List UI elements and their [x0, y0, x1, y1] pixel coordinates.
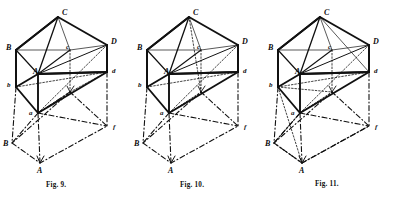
vertex-label-fig-9-9: B	[3, 140, 8, 148]
vertex-label-fig-11-9: B	[265, 140, 270, 148]
vertex-label-fig-9-2: B	[6, 44, 11, 52]
figure-11-drawing	[262, 0, 395, 197]
vertex-label-fig-10-5: A	[164, 68, 169, 76]
vertex-label-fig-9-3: c	[66, 44, 69, 51]
vertex-label-fig-10-6: b	[138, 82, 142, 89]
vertex-label-fig-9-5: A	[33, 68, 38, 76]
vertex-label-fig-10-4: d	[243, 68, 247, 75]
vertex-label-fig-11-4: d	[374, 68, 378, 75]
vertex-label-fig-10-1: D	[242, 38, 248, 46]
vertex-label-fig-11-1: D	[373, 38, 379, 46]
vertex-label-fig-10-9: B	[134, 140, 139, 148]
vertex-label-fig-11-10: A	[299, 167, 304, 175]
caption-fig-10: Fig. 10.	[180, 181, 204, 189]
vertex-label-fig-11-6: b	[269, 82, 273, 89]
vertex-label-fig-10-10: A	[168, 167, 173, 175]
vertex-label-fig-10-8: f	[244, 124, 246, 131]
vertex-label-fig-10-7: a	[160, 110, 164, 117]
vertex-label-fig-9-8: f	[113, 124, 115, 131]
figure-10-drawing	[131, 0, 262, 197]
vertex-label-fig-9-6: b	[7, 82, 11, 89]
vertex-label-fig-11-0: C	[324, 9, 329, 17]
vertex-label-fig-9-1: D	[111, 38, 117, 46]
vertex-label-fig-9-7: a	[29, 110, 33, 117]
caption-fig-9: Fig. 9.	[46, 181, 66, 189]
vertex-label-fig-10-0: C	[193, 9, 198, 17]
vertex-label-fig-11-8: f	[375, 124, 377, 131]
vertex-label-fig-11-2: B	[268, 44, 273, 52]
vertex-label-fig-9-0: C	[62, 9, 67, 17]
vertex-label-fig-11-3: c	[328, 44, 331, 51]
vertex-label-fig-11-5: A	[295, 68, 300, 76]
figure-plate: Fig. 9.CDBcdAbafBAFig. 10.CDBcdAbafBAFig…	[0, 0, 395, 197]
vertex-label-fig-11-7: a	[291, 110, 295, 117]
vertex-label-fig-10-3: c	[197, 44, 200, 51]
vertex-label-fig-10-2: B	[137, 44, 142, 52]
vertex-label-fig-9-10: A	[37, 167, 42, 175]
vertex-label-fig-9-4: d	[112, 68, 116, 75]
figure-9-drawing	[0, 0, 131, 197]
caption-fig-11: Fig. 11.	[315, 180, 339, 188]
